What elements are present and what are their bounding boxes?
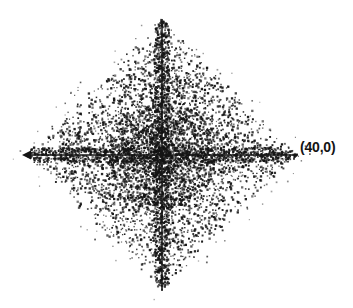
x-axis-arrowhead-icon (22, 151, 31, 160)
right-vertex-coordinate-label: (40,0) (300, 140, 335, 154)
scatter-plot-figure: (40,0) (0, 0, 353, 308)
